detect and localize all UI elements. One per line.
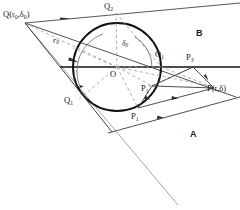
label-radius-source: r0	[53, 37, 59, 45]
q-to-field-ray	[25, 23, 236, 97]
angle-arc-outer-arrowhead	[79, 85, 83, 88]
geometry-figure: Q(r0,δ0) r0 δ0 O O1 Q2 Q1 P1 P1′ P3 P(r,…	[0, 0, 240, 210]
label-point-q2: Q2	[104, 2, 113, 11]
label-point-p1: P1	[131, 112, 139, 121]
label-point-p3: P3	[186, 53, 194, 62]
label-region-a: A	[190, 130, 197, 139]
arrowhead-p1-field	[172, 96, 179, 100]
source-to-lower-ray	[25, 23, 112, 132]
label-point-p1-prime: P1′	[141, 84, 150, 93]
dashed-radii-group	[25, 13, 210, 108]
label-center-o: O	[110, 70, 116, 79]
q-to-field-ray-group	[25, 23, 236, 97]
label-field-point: P(r,δ)	[207, 84, 226, 93]
label-angle-delta0: δ0	[122, 40, 128, 48]
upper-ray-line	[25, 3, 240, 23]
lower-long-ray	[108, 97, 240, 133]
label-point-q1: Q1	[64, 96, 73, 105]
figure-canvas	[0, 0, 240, 210]
label-source-point: Q(r0,δ0)	[3, 10, 30, 19]
label-center-o1: O1	[155, 50, 164, 59]
upper-ray-group	[25, 3, 240, 23]
label-region-b: B	[196, 29, 203, 38]
radius-to-q2	[116, 13, 117, 67]
